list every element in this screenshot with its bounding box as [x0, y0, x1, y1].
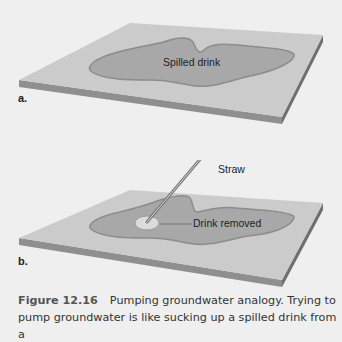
figure-number: Figure 12.16 [18, 294, 98, 307]
panel-letter-b: b. [18, 255, 28, 267]
figure-caption: Figure 12.16Pumping groundwater analogy.… [18, 292, 338, 342]
straw-label: Straw [218, 163, 245, 175]
spill-label: Spilled drink [163, 56, 220, 68]
panel-b: Straw Drink removed b. [0, 160, 342, 300]
drink-removed-label: Drink removed [193, 217, 261, 229]
panel-a: Spilled drink a. [0, 0, 342, 160]
drink-removed-illustration [0, 160, 342, 300]
spilled-drink-illustration [0, 0, 342, 160]
panel-letter-a: a. [18, 92, 27, 104]
